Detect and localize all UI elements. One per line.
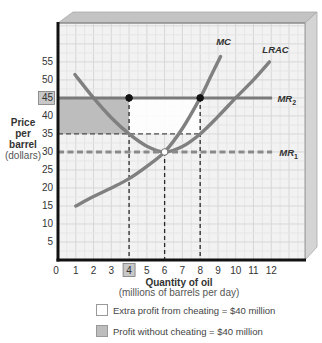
x-tick-label: 8 xyxy=(197,265,203,276)
x-tick-label: 4 xyxy=(126,265,132,276)
open-point xyxy=(161,149,168,156)
box-side-face xyxy=(305,12,317,260)
curve-label-mc: MC xyxy=(216,36,231,47)
x-tick-label: 0 xyxy=(53,265,59,276)
x-tick-label: 10 xyxy=(230,265,242,276)
x-tick-label: 9 xyxy=(215,265,221,276)
y-tick-label: 55 xyxy=(42,56,54,67)
legend-swatch-white xyxy=(96,304,108,316)
x-tick-label: 7 xyxy=(180,265,186,276)
y-axis-label-line: barrel xyxy=(0,139,46,150)
y-tick-label: 50 xyxy=(42,74,54,85)
legend-item-extra-profit: Extra profit from cheating = $40 million xyxy=(96,303,275,317)
legend-swatch-gray xyxy=(96,325,108,337)
chart-figure: MCLRACMR2MR15101520253035404550550123456… xyxy=(0,0,322,343)
y-axis-label-line: per xyxy=(0,128,46,139)
y-tick-label: 5 xyxy=(47,236,53,247)
region-profit-without-cheating xyxy=(58,98,129,134)
x-tick-label: 1 xyxy=(73,265,79,276)
y-tick-label: 15 xyxy=(42,200,54,211)
y-tick-label: 10 xyxy=(42,218,54,229)
x-tick-label: 5 xyxy=(144,265,150,276)
y-tick-label: 45 xyxy=(42,92,54,103)
legend-label: Extra profit from cheating = $40 million xyxy=(113,305,275,316)
filled-point xyxy=(197,95,204,102)
curve-label-subscript: 1 xyxy=(294,153,298,160)
x-tick-label: 12 xyxy=(266,265,278,276)
y-axis-units: (dollars) xyxy=(0,150,46,161)
curve-label-subscript: 2 xyxy=(292,99,296,106)
x-tick-label: 3 xyxy=(109,265,115,276)
legend-label: Profit without cheating = $40 million xyxy=(113,326,263,337)
legend-item-profit-without-cheating: Profit without cheating = $40 million xyxy=(96,324,263,338)
curve-label-lrac: LRAC xyxy=(262,44,289,55)
x-tick-label: 11 xyxy=(248,265,259,276)
y-tick-label: 20 xyxy=(42,182,54,193)
x-tick-label: 6 xyxy=(162,265,168,276)
x-axis-units: (millions of barrels per day) xyxy=(100,287,258,298)
y-axis-label: Price per barrel (dollars) xyxy=(0,117,46,161)
box-top-face xyxy=(58,12,317,23)
y-axis-label-line: Price xyxy=(0,117,46,128)
filled-point xyxy=(126,95,133,102)
x-tick-label: 2 xyxy=(91,265,97,276)
y-tick-label: 25 xyxy=(42,164,54,175)
